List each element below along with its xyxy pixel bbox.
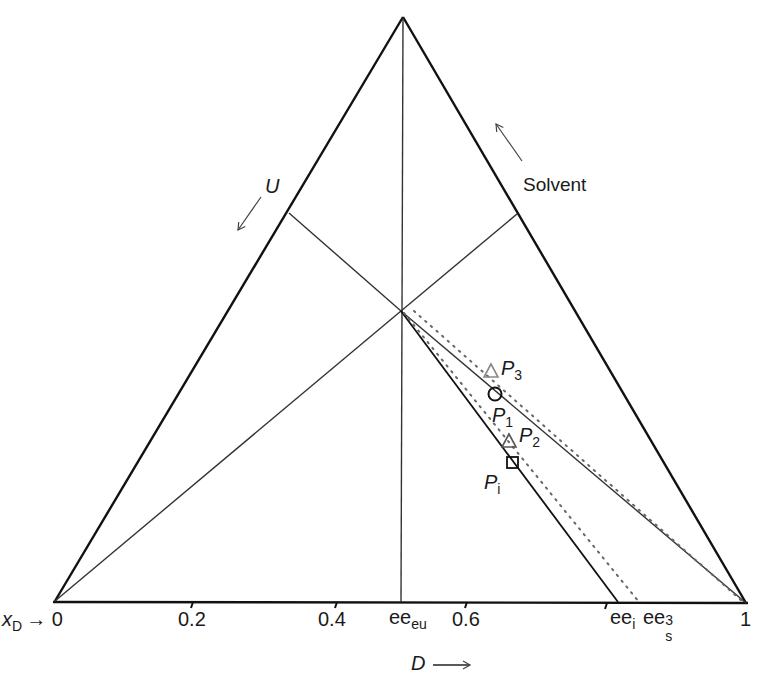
right-edge (403, 17, 746, 603)
p2-subscript: 2 (532, 434, 540, 450)
ee-eu-main: ee (389, 606, 411, 628)
solvent-label-text: Solvent (523, 174, 586, 195)
xd-letter: x (2, 608, 12, 630)
ee-s-subscript: s (665, 628, 672, 644)
ee-i-main: ee (610, 606, 632, 628)
p3-triangle-marker (484, 364, 498, 377)
p2-letter: P (519, 424, 532, 446)
xd-subscript: D (12, 618, 22, 634)
tick-label-1-text: 1 (740, 608, 751, 630)
ternary-diagram (0, 0, 763, 691)
pi-letter: P (484, 471, 497, 493)
base-edge (53, 602, 748, 603)
tick-label-0.2: 0.2 (178, 608, 206, 631)
construction-lines (55, 18, 746, 603)
left-edge (55, 17, 403, 601)
p2-label: P2 (519, 424, 540, 450)
tick-label-1: 1 (740, 608, 751, 631)
tick-label-0.6-text: 0.6 (452, 608, 480, 630)
u-label: U (265, 175, 279, 198)
ee-eu-label: eeeu (389, 606, 427, 632)
p1-letter: P (492, 404, 505, 426)
left-vertex-to-center (55, 311, 401, 601)
tick-label-0.2-text: 0.2 (178, 608, 206, 630)
solvent-arrow (496, 124, 522, 161)
xd-arrow-zero: → 0 (26, 608, 63, 630)
pi-subscript: i (497, 481, 500, 497)
p1-subscript: 1 (505, 414, 513, 430)
ee-i-subscript: i (632, 616, 635, 632)
d-axis-label: D (411, 652, 425, 675)
tick-label-0.4-text: 0.4 (318, 608, 346, 630)
pi-label: Pi (484, 471, 500, 497)
p3-label: P3 (501, 357, 522, 383)
p3-subscript: 3 (514, 367, 522, 383)
p1-label: P1 (492, 404, 513, 430)
left-perpendicular (289, 213, 401, 311)
ee-eu-subscript: eu (411, 616, 427, 632)
ee-s-main: ee (643, 606, 665, 628)
ee-s-superscript: 3 (665, 612, 673, 628)
u-label-text: U (265, 175, 279, 197)
d-axis-letter: D (411, 652, 425, 674)
right-perpendicular (401, 214, 517, 311)
xd-axis-label: xD→ 0 (2, 608, 63, 634)
solvent-label: Solvent (523, 174, 586, 196)
tick-label-0.6: 0.6 (452, 608, 480, 631)
tick-label-0.4: 0.4 (318, 608, 346, 631)
u-arrow (238, 197, 261, 230)
p3-letter: P (501, 357, 514, 379)
ee-i-label: eei (610, 606, 635, 632)
ee-s-label: ee3s (643, 606, 675, 629)
